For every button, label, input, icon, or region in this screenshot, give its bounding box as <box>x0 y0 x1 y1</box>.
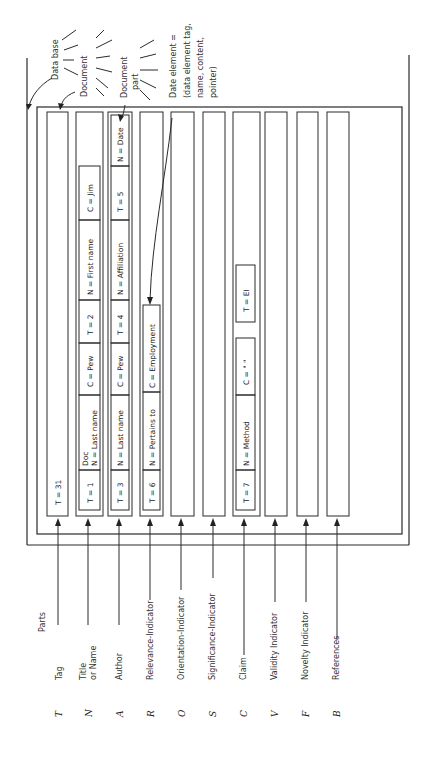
svg-text:(data element tag,: (data element tag, <box>183 23 192 98</box>
strip-orientation <box>171 112 194 516</box>
document-structure-diagram: T = 31 T = 1 Doc N = Last name C = Pew T… <box>0 0 423 778</box>
strip-tag <box>47 112 68 516</box>
part-arrows <box>55 518 340 655</box>
svg-text:F: F <box>301 710 311 718</box>
svg-text:Claim: Claim <box>239 657 248 680</box>
svg-text:Doc: Doc <box>81 452 90 467</box>
svg-text:N = Pertains to: N = Pertains to <box>148 409 157 466</box>
svg-text:T = 6: T = 6 <box>148 482 157 504</box>
svg-text:Tag: Tag <box>55 666 64 681</box>
svg-text:T = 1: T = 1 <box>86 482 95 504</box>
claim-cells: T = 7 N = Method C = " " T = EI <box>236 265 255 510</box>
svg-text:part: part <box>131 74 140 90</box>
svg-text:Significance-Indicator: Significance-Indicator <box>208 593 217 680</box>
svg-text:T = 4: T = 4 <box>116 314 125 336</box>
svg-text:N = Method: N = Method <box>242 421 251 466</box>
svg-text:N = Affiliation: N = Affiliation <box>116 243 125 295</box>
svg-text:References: References <box>332 636 341 680</box>
svg-text:N = Last name: N = Last name <box>90 410 99 466</box>
svg-text:R: R <box>146 710 156 718</box>
svg-text:T = 3: T = 3 <box>116 482 125 504</box>
strip-references <box>327 112 349 516</box>
author-cells: T = 3 N = Last name C = Pew T = 4 N = Af… <box>111 115 129 510</box>
svg-text:Relevance-Indicator: Relevance-Indicator <box>146 600 155 680</box>
svg-text:C = Pew: C = Pew <box>86 356 95 387</box>
svg-text:C = Jim: C = Jim <box>86 184 95 212</box>
svg-text:N = Last name: N = Last name <box>116 410 125 466</box>
svg-text:Author: Author <box>115 652 124 680</box>
svg-text:A: A <box>115 710 125 718</box>
svg-text:T = EI: T = EI <box>242 289 251 313</box>
svg-text:N = Date: N = Date <box>116 127 125 162</box>
parts-legend: T Tag N Title or Name A Author R Relevan… <box>54 593 342 718</box>
svg-text:O: O <box>177 709 187 717</box>
tag-cell: T = 31 <box>54 480 63 506</box>
svg-text:C: C <box>239 710 249 717</box>
svg-text:T = 5: T = 5 <box>116 191 125 213</box>
svg-text:pointer): pointer) <box>209 66 218 98</box>
svg-text:N = First name: N = First name <box>86 239 95 295</box>
strip-novelty <box>297 112 318 516</box>
svg-text:V: V <box>270 709 280 717</box>
svg-text:C = Pew: C = Pew <box>116 356 125 387</box>
svg-text:or Name: or Name <box>89 646 98 680</box>
svg-text:S: S <box>208 711 218 717</box>
annotations: Data base Document Document part Date el… <box>51 23 218 98</box>
strip-validity <box>265 112 287 516</box>
svg-text:Validity Indicator: Validity Indicator <box>270 612 279 680</box>
svg-text:Novelty Indicator: Novelty Indicator <box>301 611 310 680</box>
database-arrow <box>29 78 52 106</box>
svg-text:T: T <box>54 710 64 717</box>
svg-text:T = 2: T = 2 <box>86 314 95 336</box>
parts-header: Parts <box>38 612 47 632</box>
svg-text:name, content,: name, content, <box>196 37 205 98</box>
radiating-marks <box>62 30 158 100</box>
data-element-label: Date element = <box>169 34 178 98</box>
svg-text:C = Employment: C = Employment <box>148 324 157 388</box>
svg-text:Orientation-Indicator: Orientation-Indicator <box>177 596 186 680</box>
relevance-cells: T = 6 N = Pertains to C = Employment <box>143 305 160 510</box>
document-label: Document <box>80 56 89 97</box>
svg-text:Title: Title <box>79 663 88 681</box>
svg-text:C = " ": C = " " <box>242 359 251 385</box>
database-label: Data base <box>51 39 60 80</box>
svg-text:B: B <box>332 710 342 718</box>
document-part-label: Document <box>120 57 129 98</box>
pointer-arrowhead <box>147 297 153 305</box>
title-cells: T = 1 Doc N = Last name C = Pew T = 2 N … <box>79 166 100 510</box>
pointer-arrow <box>150 118 172 300</box>
strip-significance <box>203 112 225 516</box>
svg-text:N: N <box>84 708 94 718</box>
svg-text:T = 7: T = 7 <box>242 482 251 504</box>
